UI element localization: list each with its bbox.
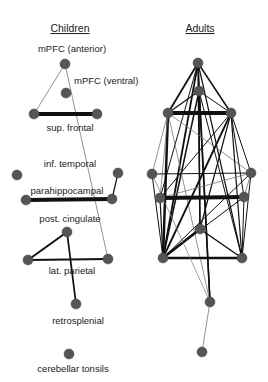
label-mpfc-ventral: mPFC (ventral) <box>74 75 138 86</box>
children-title: Children <box>50 22 89 34</box>
node-postc <box>195 224 205 234</box>
adults-nodes <box>147 58 256 357</box>
node-latp_r <box>237 253 247 263</box>
label-mpfc-anterior: mPFC (anterior) <box>38 43 106 54</box>
label-cerebellar-tonsils: cerebellar tonsils <box>37 363 109 374</box>
node-parah_r <box>239 192 249 202</box>
node-cereb <box>64 349 74 359</box>
node-mpfc_ant <box>193 58 203 68</box>
adults-edges <box>152 63 251 352</box>
node-mpfc_ant <box>60 59 70 69</box>
edge-parah_l-parah_r <box>26 199 112 200</box>
node-latp_l <box>158 253 168 263</box>
label-sup-frontal: sup. frontal <box>47 122 94 133</box>
node-parah_l <box>21 195 31 205</box>
node-supf_r <box>226 108 236 118</box>
edge-supf_r-parah_r <box>231 113 244 197</box>
node-postc <box>62 227 72 237</box>
node-inft_l <box>12 170 22 180</box>
label-parahippocampal: parahippocampal <box>31 185 104 196</box>
label-retrosplenial: retrosplenial <box>52 315 104 326</box>
adults-title: Adults <box>185 22 214 34</box>
label-post-cingulate: post. cingulate <box>39 213 100 224</box>
node-inft_r <box>246 168 256 178</box>
node-inft_r <box>113 168 123 178</box>
edge-retro-cereb <box>202 302 210 352</box>
node-mpfc_ven <box>194 86 204 96</box>
node-cereb <box>197 347 207 357</box>
children-nodes <box>12 59 123 359</box>
node-mpfc_ven <box>61 88 71 98</box>
node-parah_r <box>107 194 117 204</box>
node-retro <box>205 297 215 307</box>
node-inft_l <box>147 169 157 179</box>
connectivity-diagram: Children Adults mPFC (anterior) mPFC (ve… <box>0 0 268 382</box>
node-parah_l <box>155 193 165 203</box>
edge-mpfc_ant-supf_l <box>34 64 65 114</box>
node-retro <box>71 299 81 309</box>
node-supf_l <box>163 108 173 118</box>
node-latp_l <box>23 255 33 265</box>
edge-latp_l-latp_r <box>28 259 108 260</box>
edge-postc-latp_l <box>28 232 67 260</box>
label-inf-temporal: inf. temporal <box>44 158 96 169</box>
node-supf_r <box>92 109 102 119</box>
edge-parah_l-parah_r <box>160 197 244 198</box>
label-lat-parietal: lat. parietal <box>49 265 95 276</box>
node-latp_r <box>103 254 113 264</box>
node-supf_l <box>29 109 39 119</box>
edge-supf_r-inft_r <box>231 113 251 173</box>
